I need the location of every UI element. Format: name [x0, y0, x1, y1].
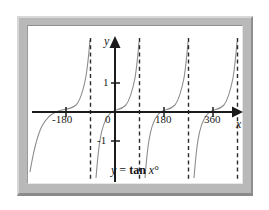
tan-branch-0: [96, 42, 139, 178]
caption-equals: =: [119, 163, 126, 177]
x-tick-label-minus180: -180: [52, 114, 72, 125]
y-tick-label-minus-1: -1: [97, 135, 106, 146]
tan-curve-branches: [30, 40, 237, 178]
figure-caption: y = tan x°: [28, 163, 242, 178]
caption-y: y: [111, 163, 116, 177]
tan-branch-minus180: [30, 40, 90, 172]
picture-frame-border: -180 180 360 1 -1 0 y x y = tan x°: [17, 16, 253, 196]
tan-graph-plot: -180 180 360 1 -1 0 y x y = tan x°: [28, 26, 242, 183]
tan-branch-180: [145, 42, 188, 178]
x-axis-arrowhead: [232, 107, 243, 118]
y-axis-arrowhead: [110, 36, 121, 48]
caption-tan: tan: [129, 163, 146, 177]
figure-container: -180 180 360 1 -1 0 y x y = tan x°: [0, 0, 269, 210]
y-axis-label: y: [104, 35, 109, 47]
origin-label: 0: [105, 114, 111, 125]
caption-degree-sign: °: [154, 163, 159, 177]
x-tick-label-180: 180: [155, 114, 172, 125]
y-tick-label-1: 1: [103, 77, 109, 88]
x-axis-label: x: [236, 118, 241, 130]
frame-inner-bevel: -180 180 360 1 -1 0 y x y = tan x°: [27, 25, 243, 184]
tan-branch-360: [194, 42, 237, 178]
x-tick-label-360: 360: [204, 114, 221, 125]
